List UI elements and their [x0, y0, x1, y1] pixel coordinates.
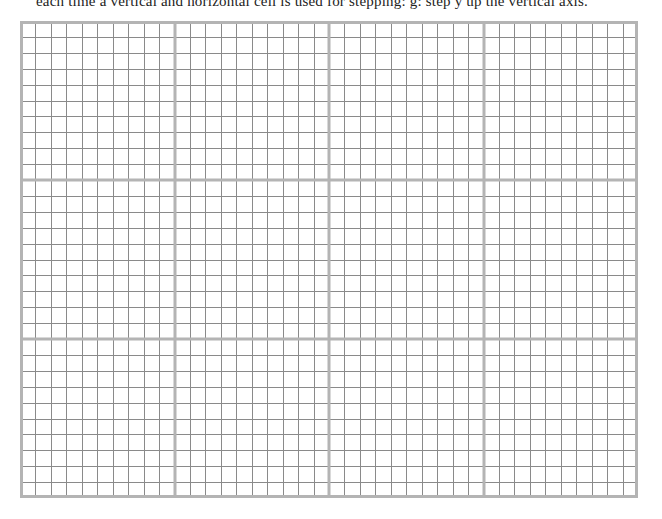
caption-text: each time a vertical and horizontal cell… — [36, 0, 588, 10]
grid-lines — [20, 21, 638, 498]
caption-clip: each time a vertical and horizontal cell… — [0, 0, 662, 11]
graph-paper-grid — [20, 21, 638, 498]
